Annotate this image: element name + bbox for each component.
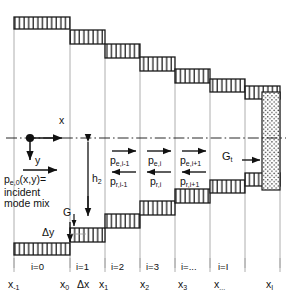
fwd0-sub: e,i-1 [116,160,130,167]
x-axis-label: x [59,115,64,126]
xt6-sub: I [271,284,273,291]
reverse-label-2: pr,i+1 [180,176,199,188]
x-tick-0: x-1 [8,279,19,291]
h2-sub: 2 [98,178,102,185]
incident-line2: incident [4,186,40,198]
Gt-main: G [222,150,231,162]
delta-x-label: Δx [77,279,89,290]
rev1-sub: r,i [156,181,161,188]
xt4-sub: 3 [183,284,187,291]
x-tick-4: x3 [178,279,187,291]
G-label: G [63,207,71,218]
Gt-sub: t [231,156,233,163]
termination-block [262,92,280,190]
diagram-canvas: x y pe,0(x,y)= incident mode mix h2 G Δy… [0,0,288,299]
fwd1-sub: e,i [154,160,161,167]
xt3-sub: 2 [145,284,149,291]
cell-label-5: i=I [218,262,228,272]
xt5-sub: ... [219,284,225,291]
coordinate-origin [26,134,62,160]
x-tick-3: x2 [140,279,149,291]
x-tick-5: x... [214,279,225,291]
reverse-label-1: pr,i [150,176,161,188]
forward-label-2: pe,i+1 [180,155,201,167]
reverse-label-0: pr,i-1 [110,176,128,188]
cell-label-2: i=2 [111,262,124,272]
incident-mode-label: pe,0(x,y)= incident mode mix [4,174,86,209]
delta-y-label: Δy [42,227,54,238]
h2-label: h2 [92,173,102,185]
cell-label-1: i=1 [76,262,89,272]
rev0-sub: r,i-1 [116,181,128,188]
xt2-sub: 1 [104,284,108,291]
x-tick-1: x0 [60,279,69,291]
forward-label-0: pe,i-1 [110,155,129,167]
upper-wall-blocks [14,17,280,99]
Gt-label: Gt [222,151,233,163]
rev2-sub: r,i+1 [186,181,199,188]
xt0-sub: -1 [13,284,19,291]
incident-p-rest: (x,y)= [20,173,47,185]
incident-line3: mode mix [4,197,50,209]
x-tick-6: xI [266,279,273,291]
diagram-vector-layer [0,0,288,299]
cell-label-0: i=0 [31,262,44,272]
cell-label-3: i=3 [146,262,159,272]
y-axis-label: y [35,155,40,166]
x-tick-2: x1 [99,279,108,291]
xt1-sub: 0 [65,284,69,291]
forward-label-1: pe,i [148,155,161,167]
fwd2-sub: e,i+1 [186,160,201,167]
cell-label-4: i=... [181,262,197,272]
